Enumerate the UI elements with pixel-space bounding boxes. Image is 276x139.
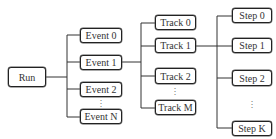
events-ellipsis: ··· [99,99,103,108]
node-event-0: Event 0 [80,28,122,43]
node-track-2: Track 2 [155,68,196,84]
steps-ellipsis: ··· [250,100,254,109]
node-track-1: Track 1 [155,38,196,53]
node-track-0: Track 0 [155,15,196,30]
node-track-m: Track M [155,100,196,115]
node-step-k: Step K [232,121,272,136]
node-step-0: Step 0 [232,8,272,23]
node-event-1: Event 1 [80,55,122,70]
tracks-ellipsis: ··· [173,87,177,96]
node-step-2: Step 2 [232,70,272,86]
node-step-1: Step 1 [232,38,272,53]
node-run: Run [8,67,46,87]
node-event-n: Event N [80,109,122,124]
